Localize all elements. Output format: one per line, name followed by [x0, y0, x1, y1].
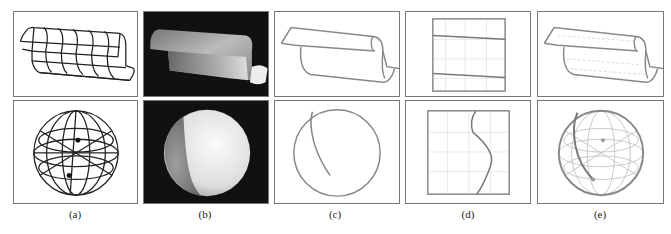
panel-c-bottom-circle-with-curve: [274, 100, 400, 204]
panel-d-bottom-grid-box-curve: [405, 100, 531, 204]
circle-curve-graphic: [275, 101, 399, 203]
wireframe-sphere-graphic: [14, 101, 137, 203]
pole-marker-top: [601, 138, 605, 142]
panel-b-top-shaded-sheet: [143, 11, 269, 97]
caption-c: (c): [305, 208, 365, 220]
pole-marker-top: [76, 138, 81, 143]
shaded-sheet-graphic: [144, 12, 268, 96]
grid-box-lines-graphic: [406, 12, 530, 96]
light-mesh-sheet-graphic: [538, 12, 663, 96]
grid-box-curve-graphic: [406, 101, 530, 203]
outline-sheet-graphic: [275, 12, 399, 96]
panel-a-bottom-wireframe-sphere: [13, 100, 138, 204]
panel-e-top-light-mesh-sheet: [537, 11, 664, 97]
caption-d: (d): [438, 208, 498, 220]
wireframe-sheet-graphic: [14, 12, 137, 96]
caption-a: (a): [45, 208, 105, 220]
caption-e: (e): [570, 208, 630, 220]
panel-d-top-grid-box: [405, 11, 531, 97]
panel-c-top-outline-sheet: [274, 11, 400, 97]
panel-b-bottom-shaded-sphere: [143, 100, 269, 204]
caption-b: (b): [175, 208, 235, 220]
pole-marker-bottom: [67, 173, 72, 178]
light-mesh-sphere-graphic: [538, 101, 663, 203]
shaded-sphere-graphic: [144, 101, 268, 203]
pole-marker-bottom: [591, 178, 595, 182]
panel-a-top-wireframe-sheet: [13, 11, 138, 97]
panel-e-bottom-light-mesh-sphere: [537, 100, 664, 204]
